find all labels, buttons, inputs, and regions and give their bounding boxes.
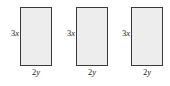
rectangle-shape-2	[76, 7, 108, 66]
width-variable-2: y	[92, 67, 96, 77]
width-label-3: 2y	[131, 67, 163, 77]
height-variable-3: x	[126, 28, 130, 38]
height-variable-1: x	[15, 28, 19, 38]
rectangle-shape-1	[20, 7, 52, 66]
width-label-2: 2y	[76, 67, 108, 77]
width-variable-1: y	[36, 67, 40, 77]
width-label-1: 2y	[20, 67, 52, 77]
height-label-2: 3x	[62, 28, 75, 38]
rectangle-shape-3	[131, 7, 163, 66]
height-label-1: 3x	[6, 28, 19, 38]
geometry-figure: 3x 2y 3x 2y 3x 2y	[0, 0, 170, 86]
height-label-3: 3x	[117, 28, 130, 38]
width-variable-3: y	[147, 67, 151, 77]
height-variable-2: x	[71, 28, 75, 38]
